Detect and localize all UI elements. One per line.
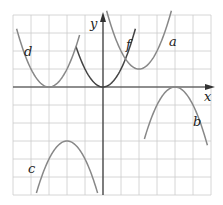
- curve-label-d: d: [24, 44, 32, 59]
- axes: [13, 12, 215, 195]
- grid: [13, 15, 211, 195]
- curve-label-a: a: [169, 34, 177, 49]
- y-axis-arrow-icon: [100, 12, 106, 22]
- curve-label-b: b: [193, 114, 201, 129]
- x-axis-label: x: [204, 89, 212, 104]
- parabola-graph: y x a b c d f: [0, 0, 223, 205]
- curve-label-c: c: [28, 161, 36, 176]
- curves: [17, 11, 208, 193]
- y-axis-label: y: [89, 16, 98, 31]
